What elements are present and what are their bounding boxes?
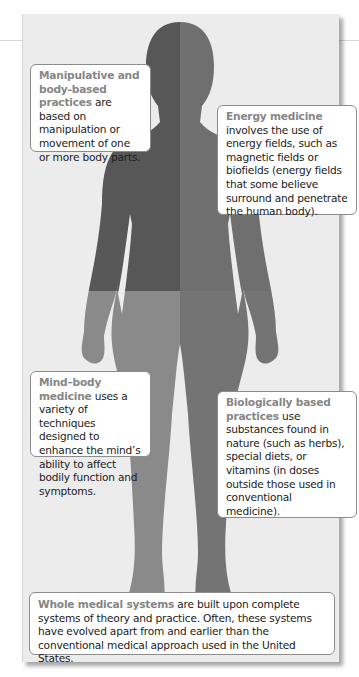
callout-manipulative-body-based: Manipulative and body-based practices ar… [30,64,151,152]
callout-body: use substances found in nature (such as … [226,410,344,517]
callout-heading: Manipulative and body-based practices [39,69,139,108]
callout-biologically-based-practices: Biologically based practices use substan… [217,391,357,518]
callout-heading: Whole medical systems [38,598,174,610]
callout-whole-medical-systems: Whole medical systems are built upon com… [29,592,335,655]
callout-energy-medicine: Energy medicine involves the use of ener… [217,105,357,215]
callout-mind-body-medicine: Mind–body medicine uses a variety of tec… [30,371,151,457]
callout-heading: Energy medicine [226,110,322,122]
callout-body: involves the use of energy fields, such … [226,124,348,218]
callout-body: uses a variety of techniques designed to… [39,390,141,497]
